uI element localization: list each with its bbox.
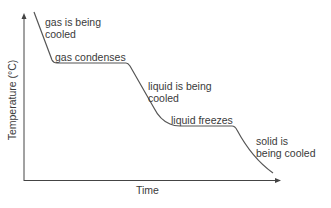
label-gas-condenses: gas condenses bbox=[55, 51, 126, 63]
y-axis-arrow-icon bbox=[22, 13, 27, 19]
label-gas-cooled: gas is being cooled bbox=[45, 16, 101, 40]
label-liquid-cooled: liquid is being cooled bbox=[148, 80, 212, 104]
cooling-curve-chart: gas is being cooled gas condenses liquid… bbox=[0, 0, 331, 208]
y-axis-title: Temperature (°C) bbox=[6, 60, 18, 141]
x-axis-title: Time bbox=[136, 184, 159, 196]
x-axis-arrow-icon bbox=[275, 178, 281, 183]
label-liquid-freezes: liquid freezes bbox=[171, 114, 233, 126]
label-solid-cooled: solid is being cooled bbox=[256, 135, 316, 159]
